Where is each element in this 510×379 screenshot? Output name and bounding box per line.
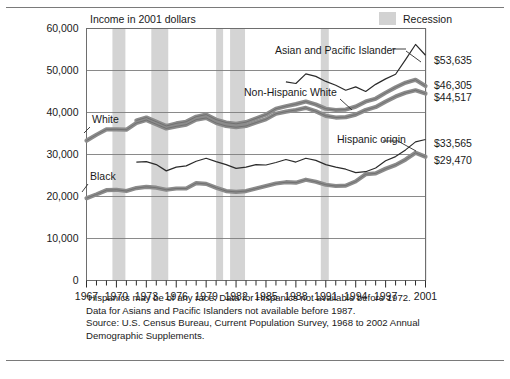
series-label: Black [90, 170, 116, 182]
recession-legend-label: Recession [403, 13, 452, 25]
series-label: Asian and Pacific Islander [275, 44, 396, 56]
y-tick-label: 30,000 [46, 148, 78, 160]
footnote-line-3: Source: U.S. Census Bureau, Current Popu… [86, 317, 486, 330]
series-end-value-label: $29,470 [434, 154, 472, 166]
y-tick-label: 60,000 [46, 22, 78, 34]
recession-legend-swatch [379, 12, 396, 25]
series-label: Hispanic origin [337, 133, 406, 145]
footnote-block: ‘Hispanics may be of any race. Data for … [86, 292, 486, 342]
figure-container: 60,00050,00040,00030,00020,00010,0000 19… [0, 0, 510, 379]
series-label: Non-Hispanic White [244, 86, 337, 98]
y-tick-label: 40,000 [46, 106, 78, 118]
footnote-line-2: Data for Asians and Pacific Islanders no… [86, 305, 486, 318]
y-tick-label: 20,000 [46, 190, 78, 202]
right-value-labels-group: $53,635$46,305$44,517$33,565$29,470 [434, 54, 472, 166]
series-label: White [92, 113, 119, 125]
series-lines-group [87, 44, 426, 198]
series-end-value-label: $44,517 [434, 91, 472, 103]
series-end-value-label: $46,305 [434, 79, 472, 91]
y-axis-tick-labels: 60,00050,00040,00030,00020,00010,0000 [46, 22, 78, 286]
annotation-leader-line [82, 184, 88, 192]
series-end-value-label: $33,565 [434, 137, 472, 149]
y-tick-label: 50,000 [46, 64, 78, 76]
footnote-line-4: Demographic Supplements. [86, 330, 486, 343]
y-axis-title: Income in 2001 dollars [90, 13, 196, 25]
series-end-value-label: $53,635 [434, 54, 472, 66]
series-line-black [87, 153, 426, 198]
y-tick-label: 0 [73, 274, 79, 286]
footnote-line-1: ‘Hispanics may be of any race. Data for … [86, 292, 486, 305]
y-tick-label: 10,000 [46, 232, 78, 244]
